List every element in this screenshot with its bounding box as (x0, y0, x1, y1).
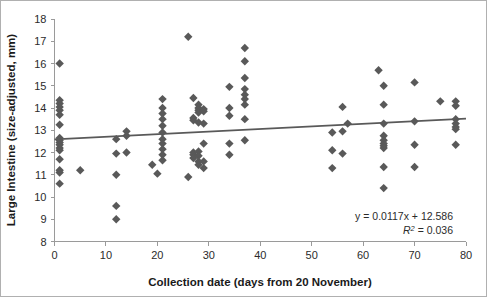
r-squared-value: = 0.036 (415, 224, 453, 236)
y-axis-title: Large Intestine (size-adjusted, mm) (5, 34, 17, 227)
r-squared-label: R2 = 0.036 (403, 224, 453, 237)
x-tick-label: 20 (151, 249, 163, 261)
y-tick-label: 9 (40, 213, 46, 225)
x-tick-label: 10 (100, 249, 112, 261)
y-tick-label: 15 (34, 80, 46, 92)
y-tick-label: 8 (40, 236, 46, 248)
x-tick-label: 60 (357, 249, 369, 261)
y-tick-label: 10 (34, 191, 46, 203)
x-tick-label: 50 (306, 249, 318, 261)
scatter-chart-figure: 89101112131415161718 01020304050607080 y… (0, 0, 487, 297)
y-tick-label: 18 (34, 13, 46, 25)
y-tick-label: 13 (34, 124, 46, 136)
chart-canvas: 89101112131415161718 01020304050607080 y… (1, 1, 487, 297)
x-tick-label: 70 (408, 249, 420, 261)
regression-equation-label: y = 0.0117x + 12.586 (355, 210, 453, 222)
y-tick-label: 17 (34, 35, 46, 47)
y-tick-label: 11 (35, 169, 46, 181)
x-tick-label: 0 (51, 249, 57, 261)
x-tick-label: 30 (203, 249, 215, 261)
y-axis-ticks: 89101112131415161718 (34, 13, 54, 248)
y-tick-label: 12 (34, 147, 46, 159)
y-tick-label: 16 (34, 58, 46, 70)
x-tick-label: 80 (460, 249, 472, 261)
x-axis-title: Collection date (days from 20 November) (148, 276, 372, 288)
x-axis-ticks: 01020304050607080 (51, 242, 472, 261)
x-tick-label: 40 (254, 249, 266, 261)
y-tick-label: 14 (34, 102, 46, 114)
